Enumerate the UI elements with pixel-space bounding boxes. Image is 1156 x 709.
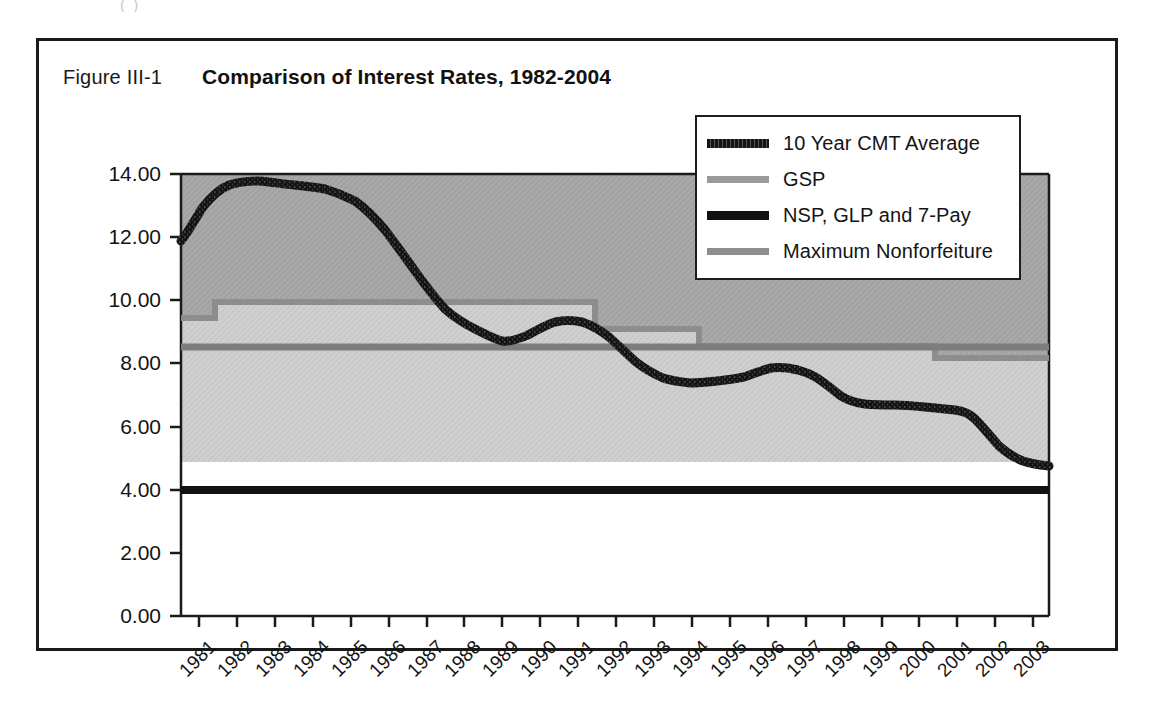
y-tick-label-14: 14.00 — [65, 162, 161, 186]
y-tick-label-12: 12.00 — [65, 225, 161, 249]
legend-label-maxnf: Maximum Nonforfeiture — [783, 240, 993, 263]
y-tick-label-6: 6.00 — [65, 415, 161, 439]
legend-swatch-maxnf-line-icon — [707, 248, 769, 255]
legend-swatch-nsp-line-icon — [707, 211, 769, 220]
y-tick-label-10: 10.00 — [65, 288, 161, 312]
legend-item-maxnf: Maximum Nonforfeiture — [707, 233, 1009, 269]
legend-swatch-gsp-line-icon — [707, 176, 769, 183]
figure-frame: Figure III-1 Comparison of Interest Rate… — [36, 38, 1118, 651]
legend-item-gsp: GSP — [707, 161, 1009, 197]
legend-swatch-cmt-line-icon — [707, 139, 769, 148]
y-tick-label-2: 2.00 — [65, 541, 161, 565]
y-tick-label-4: 4.00 — [65, 478, 161, 502]
chart-legend: 10 Year CMT Average GSP NSP, GLP and 7-P… — [695, 115, 1021, 280]
legend-item-cmt: 10 Year CMT Average — [707, 125, 1009, 161]
x-axis-ticks — [199, 616, 1033, 627]
y-tick-label-8: 8.00 — [65, 351, 161, 375]
plot-area: 14.00 12.00 10.00 8.00 6.00 4.00 2.00 0.… — [39, 41, 1121, 654]
legend-item-nsp: NSP, GLP and 7-Pay — [707, 197, 1009, 233]
scan-artifact-text: ( ) — [120, 0, 460, 12]
legend-label-nsp: NSP, GLP and 7-Pay — [783, 204, 971, 227]
figure-page: ( ) Figure III-1 Comparison of Interest … — [0, 0, 1156, 709]
legend-label-gsp: GSP — [783, 168, 826, 191]
y-tick-label-0: 0.00 — [65, 604, 161, 628]
legend-label-cmt: 10 Year CMT Average — [783, 132, 980, 155]
